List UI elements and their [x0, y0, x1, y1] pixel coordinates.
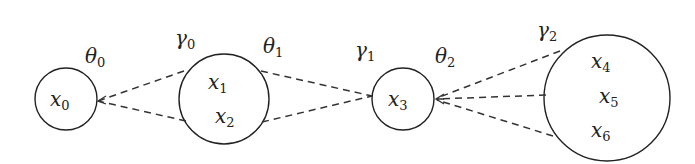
param-theta1: θ1 — [263, 34, 283, 60]
edge-x456-to-x3-bottom — [437, 100, 553, 136]
param-gamma0: γ0 — [175, 26, 195, 52]
label-x3: x3 — [388, 87, 408, 113]
label-x4: x4 — [591, 49, 611, 75]
param-gamma2: γ2 — [537, 18, 557, 44]
arrowhead-x3 — [436, 94, 444, 104]
label-x6: x6 — [591, 118, 611, 144]
edge-x456-to-x3-middle — [437, 95, 546, 99]
node-x1-x2 — [179, 54, 269, 144]
label-x5: x5 — [599, 84, 619, 110]
label-x2: x2 — [215, 104, 235, 130]
edge-x12-to-x0-upper — [98, 71, 184, 101]
param-gamma1: γ1 — [355, 38, 375, 64]
param-theta0: θ0 — [85, 44, 105, 70]
edge-x12-to-x0-lower — [98, 101, 186, 121]
factor-graph-diagram: x0 x1 x2 x3 x4 x5 x6 θ0 γ0 θ1 γ1 θ2 γ2 — [0, 0, 695, 164]
edge-x456-to-x3-top — [437, 51, 560, 98]
edge-x12-to-x3-lower — [262, 96, 372, 122]
param-theta2: θ2 — [435, 44, 455, 70]
label-x1: x1 — [208, 70, 228, 96]
edge-x12-to-x3-upper — [261, 71, 372, 96]
label-x0: x0 — [50, 87, 70, 113]
